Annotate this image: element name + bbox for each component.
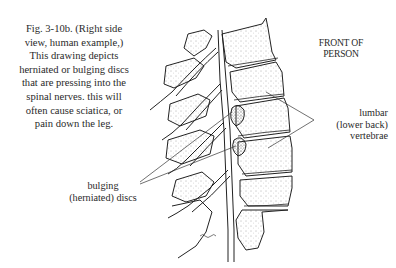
spinous-process xyxy=(164,58,204,88)
vertebra-body xyxy=(222,18,276,68)
spinous-process xyxy=(184,30,212,56)
spinous-process xyxy=(166,130,214,164)
pelvis-edge xyxy=(172,200,212,258)
vertebral-bodies xyxy=(222,18,292,250)
spinous-processes xyxy=(164,30,214,258)
vertebra-body xyxy=(238,136,292,176)
vertebra-body xyxy=(240,176,292,206)
spinous-process xyxy=(172,172,214,202)
spine-illustration xyxy=(0,0,396,268)
spinal-cord xyxy=(218,30,228,262)
sacrum xyxy=(236,210,288,250)
